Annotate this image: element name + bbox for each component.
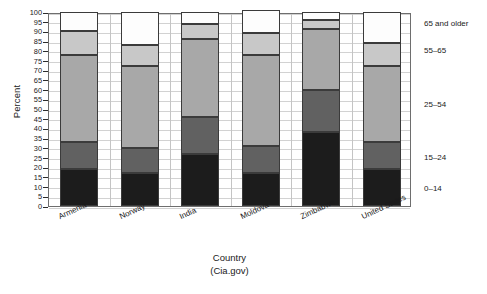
- y-axis-tick-label: 0: [20, 203, 42, 210]
- y-axis-tick-mark: [43, 119, 48, 120]
- y-axis-tick-mark: [43, 158, 48, 159]
- y-gridline: [49, 140, 410, 141]
- y-axis-tick-mark: [43, 177, 48, 178]
- bar-segment-65-and-older[interactable]: [60, 12, 98, 31]
- bar-segment-55-65[interactable]: [363, 43, 401, 66]
- y-axis-tick-label: 45: [20, 116, 42, 123]
- y-gridline: [49, 91, 410, 92]
- bar-segment-55-65[interactable]: [60, 31, 98, 54]
- y-axis-tick-mark: [43, 51, 48, 52]
- bar-segment-65-and-older[interactable]: [363, 12, 401, 43]
- bar-segment-15-24[interactable]: [242, 146, 280, 173]
- y-axis-tick-mark: [43, 42, 48, 43]
- y-axis-tick-label: 70: [20, 67, 42, 74]
- legend-label: 25–54: [424, 100, 446, 109]
- bar-segment-0-14[interactable]: [302, 132, 340, 206]
- x-axis-title-source: (Cia.gov): [48, 265, 411, 278]
- bar-india[interactable]: [181, 12, 219, 206]
- bar-segment-15-24[interactable]: [121, 148, 159, 173]
- y-axis-tick-mark: [43, 61, 48, 62]
- bar-segment-55-65[interactable]: [121, 45, 159, 66]
- y-axis-tick-label: 85: [20, 38, 42, 45]
- bar-segment-65-and-older[interactable]: [302, 12, 340, 20]
- y-axis-tick-label: 25: [20, 155, 42, 162]
- bar-moldova[interactable]: [242, 12, 280, 206]
- y-axis-tick-mark: [43, 168, 48, 169]
- bar-segment-0-14[interactable]: [181, 154, 219, 206]
- y-axis-tick-label: 10: [20, 184, 42, 191]
- bar-segment-0-14[interactable]: [242, 173, 280, 206]
- bar-segment-55-65[interactable]: [242, 33, 280, 54]
- y-gridline: [49, 111, 410, 112]
- y-gridline: [49, 178, 410, 179]
- x-axis-title: Country (Cia.gov): [48, 252, 411, 277]
- y-gridline: [49, 149, 410, 150]
- bar-segment-0-14[interactable]: [60, 169, 98, 206]
- legend-label: 55–65: [424, 46, 446, 55]
- y-axis-tick-label: 55: [20, 97, 42, 104]
- y-axis-tick-mark: [43, 139, 48, 140]
- bar-segment-25-54[interactable]: [302, 29, 340, 89]
- bar-segment-65-and-older[interactable]: [121, 12, 159, 45]
- y-axis-tick-mark: [43, 22, 48, 23]
- y-axis-tick-labels: 0510152025303540455055606570758085909510…: [20, 13, 42, 207]
- y-gridline: [49, 23, 410, 24]
- bar-segment-55-65[interactable]: [181, 24, 219, 40]
- y-axis-tick-label: 15: [20, 174, 42, 181]
- bar-armenia[interactable]: [60, 12, 98, 206]
- bar-segment-25-54[interactable]: [121, 66, 159, 147]
- y-axis-tick-mark: [43, 71, 48, 72]
- y-gridline: [49, 159, 410, 160]
- y-axis-tick-label: 95: [20, 19, 42, 26]
- bar-segment-55-65[interactable]: [302, 20, 340, 30]
- y-gridline: [49, 208, 410, 209]
- bar-segment-0-14[interactable]: [121, 173, 159, 206]
- y-axis-tick-mark: [43, 148, 48, 149]
- bar-segment-25-54[interactable]: [242, 55, 280, 146]
- y-axis-tick-label: 5: [20, 194, 42, 201]
- legend-label: 65 and older: [424, 19, 468, 28]
- bar-segment-25-54[interactable]: [181, 39, 219, 117]
- y-axis-tick-mark: [43, 197, 48, 198]
- x-gridline: [231, 14, 232, 206]
- bar-segment-25-54[interactable]: [363, 66, 401, 142]
- bar-segment-65-and-older[interactable]: [242, 10, 280, 33]
- y-axis-tick-label: 80: [20, 48, 42, 55]
- y-axis-tick-label: 35: [20, 135, 42, 142]
- y-axis-tick-label: 50: [20, 106, 42, 113]
- bar-segment-15-24[interactable]: [302, 90, 340, 133]
- y-gridline: [49, 188, 410, 189]
- y-axis-tick-label: 65: [20, 77, 42, 84]
- bar-united-states[interactable]: [363, 12, 401, 206]
- y-gridline: [49, 62, 410, 63]
- x-gridline: [352, 14, 353, 206]
- y-axis-tick-mark: [43, 32, 48, 33]
- y-axis-tick-label: 100: [20, 9, 42, 16]
- y-gridline: [49, 14, 410, 15]
- x-axis-title-main: Country: [48, 252, 411, 265]
- y-axis-tick-label: 20: [20, 164, 42, 171]
- y-axis-tick-label: 60: [20, 87, 42, 94]
- y-axis-tick-label: 90: [20, 29, 42, 36]
- y-axis-tick-label: 75: [20, 58, 42, 65]
- bar-segment-15-24[interactable]: [60, 142, 98, 169]
- bar-norway[interactable]: [121, 12, 159, 206]
- y-gridline: [49, 198, 410, 199]
- y-axis-tick-mark: [43, 129, 48, 130]
- y-gridline: [49, 101, 410, 102]
- y-axis-tick-mark: [43, 100, 48, 101]
- y-gridline: [49, 120, 410, 121]
- bar-segment-65-and-older[interactable]: [181, 12, 219, 24]
- y-axis-tick-mark: [43, 90, 48, 91]
- y-gridline: [49, 169, 410, 170]
- legend-label: 15–24: [424, 153, 446, 162]
- y-gridline: [49, 81, 410, 82]
- y-axis-tick-label: 30: [20, 145, 42, 152]
- x-gridline: [291, 14, 292, 206]
- bar-segment-25-54[interactable]: [60, 55, 98, 142]
- bar-segment-15-24[interactable]: [181, 117, 219, 154]
- bar-zimbabwe[interactable]: [302, 12, 340, 206]
- y-axis-tick-mark: [43, 207, 48, 208]
- bar-segment-15-24[interactable]: [363, 142, 401, 169]
- y-axis-tick-mark: [43, 13, 48, 14]
